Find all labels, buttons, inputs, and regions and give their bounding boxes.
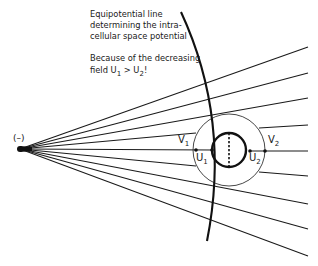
- field-line-8: [20, 149, 308, 229]
- v1-sub: 1: [185, 140, 189, 148]
- field-line-4-left: [20, 133, 196, 149]
- source-convergence: [20, 146, 32, 152]
- u1-sub: 1: [203, 158, 207, 166]
- field-diagram: Equipotential line determining the intra…: [0, 0, 318, 266]
- u2-sub: 2: [256, 158, 260, 166]
- field-line-9: [20, 149, 308, 256]
- v2-sub: 2: [275, 140, 279, 148]
- field-line-2: [20, 73, 308, 149]
- v1-label: V1: [178, 134, 189, 148]
- u1-point: [210, 148, 214, 152]
- equipotential-line: [181, 12, 215, 241]
- annotation-comparison: > U: [121, 65, 139, 75]
- source-label: (–): [13, 133, 25, 143]
- field-line-5-left: [20, 149, 213, 150]
- v1-base: V: [178, 134, 185, 145]
- v2-base: V: [268, 134, 275, 145]
- field-line-6-left: [20, 149, 196, 166]
- v2-point: [263, 149, 267, 153]
- field-line-6-right: [259, 172, 308, 176]
- annotation-line-3: cellular space potential: [90, 31, 187, 41]
- annotation-line-2: determining the intra-: [90, 20, 182, 30]
- field-line-3: [20, 98, 308, 149]
- v2-label: V2: [268, 134, 279, 148]
- annotation-line-4: Because of the decreasing: [90, 53, 200, 63]
- u1-label: U1: [196, 152, 208, 166]
- annotation-field-text: field U: [90, 65, 117, 75]
- field-line-4-right: [259, 125, 308, 128]
- u2-label: U2: [249, 152, 261, 166]
- field-line-7: [20, 149, 308, 204]
- annotation-line-5: field U1 > U2!: [90, 65, 147, 79]
- annotation-line-1: Equipotential line: [90, 9, 163, 19]
- annotation-exclamation: !: [144, 65, 147, 75]
